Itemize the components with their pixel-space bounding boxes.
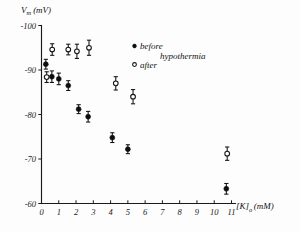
data-point-before-1: [49, 71, 54, 83]
y-axis-title-sub: m: [27, 9, 32, 16]
x-tick-label-0: 0: [39, 207, 44, 217]
y-tick-label-4: -60: [25, 199, 37, 209]
x-tick-label-1: 1: [57, 207, 61, 217]
data-point-after-1: [50, 44, 55, 56]
marker-filled-circle: [49, 74, 54, 79]
y-tick-label-0: -100: [20, 21, 36, 31]
data-point-before-3: [66, 81, 71, 91]
x-tick-label-9: 9: [195, 207, 200, 217]
y-tick-label-1: -90: [25, 65, 37, 75]
scatter-plot: -100-90-80-70-6001234567891011 Vm(mV)[K]…: [0, 0, 300, 232]
marker-open-circle: [225, 151, 230, 156]
y-axis-title-unit: (mV): [33, 5, 51, 15]
data-point-before-0: [43, 59, 48, 69]
legend-label-hypothermia: hypothermia: [160, 51, 206, 61]
series-before: [43, 59, 228, 194]
marker-open-circle: [75, 49, 80, 54]
legend: beforehypothermiaafter: [133, 41, 206, 70]
legend-marker-after: [133, 63, 137, 67]
x-tick-label-11: 11: [228, 207, 236, 217]
marker-filled-circle: [86, 114, 91, 119]
data-point-after-6: [131, 90, 136, 104]
marker-filled-circle: [43, 62, 48, 67]
axis-titles: Vm(mV)[K]o(mM): [21, 5, 274, 213]
marker-open-circle: [66, 47, 71, 52]
data-point-before-8: [224, 183, 229, 194]
data-point-before-4: [76, 105, 81, 114]
legend-label-before: before: [140, 41, 163, 51]
x-axis-title-unit: (mM): [254, 201, 274, 211]
x-axis-title-sub: o: [249, 206, 252, 213]
marker-filled-circle: [125, 147, 130, 152]
data-point-after-7: [225, 147, 230, 160]
data-point-before-2: [56, 73, 61, 85]
x-axis-title: [K]o(mM): [236, 201, 274, 213]
legend-marker-before: [133, 44, 137, 48]
data-point-after-0: [44, 72, 49, 83]
data-point-before-7: [125, 145, 130, 154]
marker-filled-circle: [224, 186, 229, 191]
x-tick-label-8: 8: [178, 207, 183, 217]
y-tick-label-2: -80: [25, 110, 37, 120]
x-tick-label-4: 4: [108, 207, 113, 217]
chart-figure: -100-90-80-70-6001234567891011 Vm(mV)[K]…: [0, 0, 300, 232]
marker-filled-circle: [66, 83, 71, 88]
marker-filled-circle: [76, 107, 81, 112]
legend-label-after: after: [140, 60, 157, 70]
marker-open-circle: [87, 45, 92, 50]
data-point-after-5: [113, 77, 118, 90]
marker-filled-circle: [110, 135, 115, 140]
axes: [42, 26, 236, 204]
data-point-before-6: [110, 133, 115, 143]
x-tick-label-2: 2: [74, 207, 79, 217]
marker-open-circle: [50, 47, 55, 52]
x-tick-label-5: 5: [126, 207, 130, 217]
x-tick-label-6: 6: [143, 207, 148, 217]
data-point-after-2: [66, 44, 71, 55]
data-point-after-4: [87, 40, 92, 55]
x-tick-label-7: 7: [160, 207, 165, 217]
y-tick-label-3: -70: [25, 154, 37, 164]
marker-open-circle: [113, 81, 118, 86]
data-point-after-3: [75, 44, 80, 58]
x-tick-label-3: 3: [90, 207, 95, 217]
x-tick-label-10: 10: [210, 207, 219, 217]
marker-filled-circle: [56, 76, 61, 81]
marker-open-circle: [131, 94, 136, 99]
y-axis-title: Vm(mV): [21, 5, 51, 16]
data-point-before-5: [86, 111, 91, 122]
x-axis-title-main: [K]: [236, 201, 250, 211]
marker-open-circle: [44, 75, 49, 80]
